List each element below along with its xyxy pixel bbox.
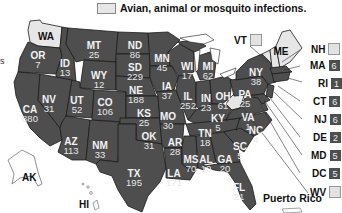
label-mn: MN45 (154, 54, 170, 72)
label-in: IN23 (201, 94, 212, 112)
legend-label: Avian, animal or mosquito infections. (120, 2, 306, 14)
lake-erie (220, 68, 236, 78)
legend-swatch (97, 3, 116, 14)
label-ar: AR28 (168, 138, 182, 156)
label-oh: OH61 (216, 92, 231, 110)
label-ky: KY5 (211, 114, 225, 132)
label-ga: GA20 (218, 155, 233, 173)
label-ny: NY38 (249, 68, 263, 86)
label-az: AZ113 (63, 137, 78, 155)
callout-md: MD5 (311, 150, 341, 161)
label-fl: FL21 (233, 183, 245, 201)
callout-vt-box (250, 34, 262, 46)
label-mi: MI62 (202, 62, 213, 80)
label-ne: NE188 (128, 86, 144, 104)
label-mo: MO30 (160, 112, 176, 130)
label-ut: UT52 (70, 96, 83, 114)
edge-text-fragment: s (0, 56, 5, 66)
label-id: ID13 (60, 59, 71, 77)
callout-ma: MA6 (310, 60, 340, 71)
label-ia: IA37 (162, 82, 173, 100)
callout-nh: NH (311, 43, 340, 55)
label-wy: WY12 (91, 71, 107, 89)
label-mt: MT25 (87, 41, 101, 59)
label-nv: NV31 (42, 95, 56, 113)
label-tx: TX195 (126, 169, 142, 187)
label-sd: SD229 (127, 63, 143, 81)
label-ak: AK (22, 172, 36, 183)
label-al: AL10 (199, 155, 212, 173)
label-or: OR7 (31, 51, 46, 69)
label-co: CO106 (97, 98, 113, 116)
callout-nh-box (328, 43, 340, 55)
callout-vt: VT (234, 34, 262, 46)
callout-dc: DC5 (312, 168, 340, 179)
callout-de: DE2 (313, 132, 341, 143)
label-wa: WA (38, 32, 54, 41)
callout-nj: NJ6 (314, 114, 341, 125)
label-me: ME (274, 47, 289, 56)
label-wi: WI17 (181, 62, 193, 80)
label-pa: PA25 (238, 90, 251, 108)
label-ok: OK31 (142, 132, 157, 150)
callout-wv-box (329, 186, 341, 198)
callout-ct: CT6 (313, 96, 340, 107)
puerto-rico-shape (282, 208, 302, 213)
label-hi: HI (79, 199, 89, 210)
label-la: LA171 (166, 169, 182, 187)
label-sc: SC5 (233, 142, 247, 160)
legend: Avian, animal or mosquito infections. (97, 1, 306, 15)
label-ca: CA880 (22, 105, 38, 123)
callout-wv: WV (310, 186, 341, 198)
callout-ri: RI1 (318, 78, 342, 89)
label-va: VA1 (241, 113, 254, 131)
label-nd: ND86 (128, 41, 142, 59)
label-il: IL252 (180, 92, 196, 110)
state-ct-ri (272, 72, 290, 82)
label-tn: TN18 (198, 129, 211, 147)
label-ms: MS70 (184, 155, 199, 173)
label-nm: NM33 (92, 141, 108, 159)
label-ks: KS25 (137, 109, 151, 127)
